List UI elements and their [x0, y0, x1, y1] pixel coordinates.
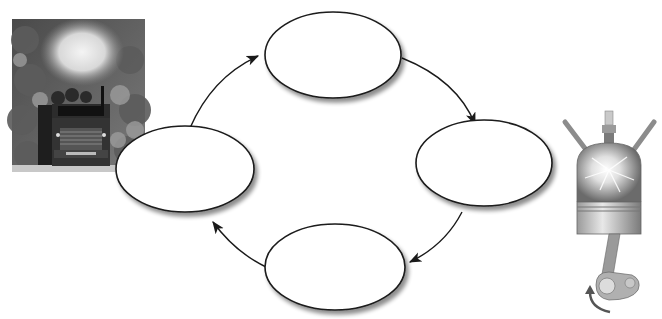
spark-plug-icon — [602, 111, 616, 143]
cycle-node-left[interactable] — [116, 126, 254, 212]
arrow-right-to-bottom — [410, 212, 462, 262]
cycle-node-bottom[interactable] — [265, 224, 405, 310]
engine-cylinder-illustration — [565, 111, 654, 312]
arrow-top-to-right — [402, 58, 475, 124]
arrow-bottom-to-left — [213, 222, 266, 267]
crankshaft-icon — [596, 272, 639, 300]
cycle-node-right[interactable] — [416, 120, 552, 206]
cycle-diagram — [0, 0, 662, 319]
arrow-left-to-top — [190, 56, 258, 128]
cycle-node-top[interactable] — [265, 12, 401, 98]
